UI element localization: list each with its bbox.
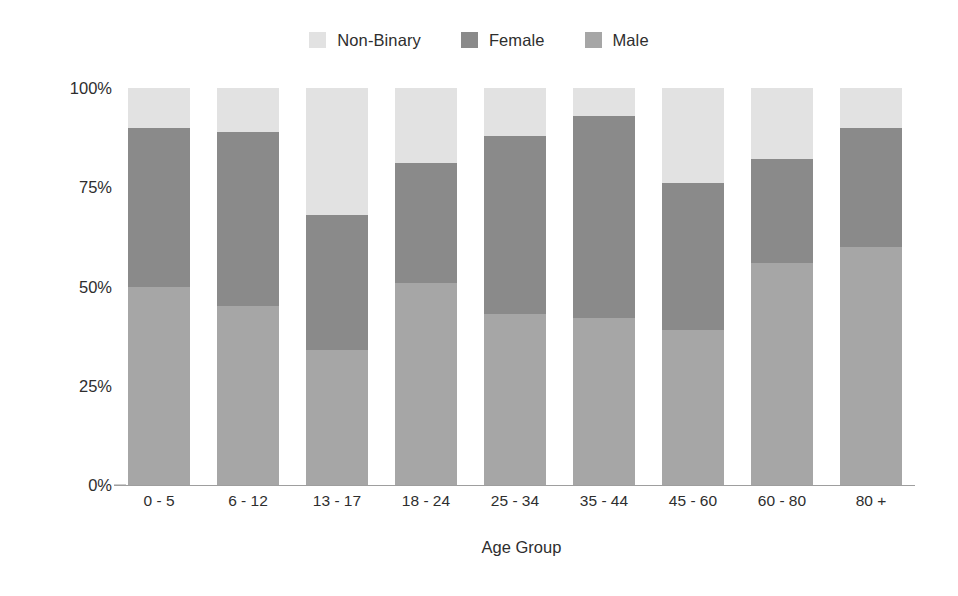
y-axis-tick-label: 100% — [70, 79, 112, 98]
chart-legend: Non-Binary Female Male — [0, 28, 958, 52]
bar-segment-male[interactable] — [128, 287, 190, 486]
bar-segment-male[interactable] — [484, 314, 546, 485]
bar-segment-female[interactable] — [751, 159, 813, 262]
legend-label-female: Female — [489, 31, 545, 50]
bar-segment-male[interactable] — [573, 318, 635, 485]
x-axis-tick-label: 18 - 24 — [395, 492, 457, 510]
bar-segment-female[interactable] — [840, 128, 902, 247]
bar-18-24[interactable] — [395, 88, 457, 485]
bar-segment-non-binary[interactable] — [573, 88, 635, 116]
bar-segment-female[interactable] — [484, 136, 546, 315]
y-axis-tick-label: 50% — [79, 277, 112, 296]
legend-item-female[interactable]: Female — [461, 31, 545, 50]
y-axis-tick-label: 75% — [79, 178, 112, 197]
x-axis-line — [114, 485, 915, 486]
bar-35-44[interactable] — [573, 88, 635, 485]
x-axis-tick-label: 80 + — [840, 492, 902, 510]
bar-segment-female[interactable] — [395, 163, 457, 282]
bar-segment-female[interactable] — [662, 183, 724, 330]
y-axis-tick-label: 25% — [79, 376, 112, 395]
legend-label-non-binary: Non-Binary — [337, 31, 421, 50]
y-axis-tick-label: 0% — [88, 476, 112, 495]
x-axis-tick-labels: 0 - 56 - 1213 - 1718 - 2425 - 3435 - 444… — [128, 492, 915, 516]
x-axis-tick-label: 13 - 17 — [306, 492, 368, 510]
bar-segment-male[interactable] — [840, 247, 902, 485]
bar-segment-male[interactable] — [306, 350, 368, 485]
bar-60-80[interactable] — [751, 88, 813, 485]
legend-swatch-non-binary — [309, 32, 326, 48]
bar-45-60[interactable] — [662, 88, 724, 485]
bar-25-34[interactable] — [484, 88, 546, 485]
x-axis-title: Age Group — [128, 538, 915, 557]
bar-segment-non-binary[interactable] — [217, 88, 279, 132]
bar-0-5[interactable] — [128, 88, 190, 485]
x-axis-tick-label: 0 - 5 — [128, 492, 190, 510]
legend-swatch-male — [585, 32, 602, 48]
bar-80plus[interactable] — [840, 88, 902, 485]
bar-segment-non-binary[interactable] — [484, 88, 546, 136]
bar-segment-female[interactable] — [128, 128, 190, 287]
bar-segment-female[interactable] — [217, 132, 279, 307]
plot-area: 0%25%50%75%100% — [128, 88, 915, 485]
bar-segment-male[interactable] — [217, 306, 279, 485]
bar-segment-male[interactable] — [751, 263, 813, 485]
bar-6-12[interactable] — [217, 88, 279, 485]
bar-segment-female[interactable] — [573, 116, 635, 318]
bar-segment-non-binary[interactable] — [395, 88, 457, 163]
bar-13-17[interactable] — [306, 88, 368, 485]
x-axis-tick-label: 60 - 80 — [751, 492, 813, 510]
x-axis-tick-label: 6 - 12 — [217, 492, 279, 510]
x-axis-tick-label: 35 - 44 — [573, 492, 635, 510]
bar-segment-male[interactable] — [395, 283, 457, 485]
x-axis-tick-label: 25 - 34 — [484, 492, 546, 510]
bar-segment-female[interactable] — [306, 215, 368, 350]
bar-segment-non-binary[interactable] — [306, 88, 368, 215]
bar-segment-non-binary[interactable] — [662, 88, 724, 183]
legend-label-male: Male — [613, 31, 649, 50]
bar-segment-non-binary[interactable] — [128, 88, 190, 128]
legend-item-non-binary[interactable]: Non-Binary — [309, 31, 421, 50]
bar-segment-male[interactable] — [662, 330, 724, 485]
x-axis-tick-label: 45 - 60 — [662, 492, 724, 510]
legend-swatch-female — [461, 32, 478, 48]
bar-segment-non-binary[interactable] — [840, 88, 902, 128]
stacked-bar-chart: Non-Binary Female Male 0%25%50%75%100% 0… — [0, 0, 958, 596]
bar-segment-non-binary[interactable] — [751, 88, 813, 159]
legend-item-male[interactable]: Male — [585, 31, 649, 50]
